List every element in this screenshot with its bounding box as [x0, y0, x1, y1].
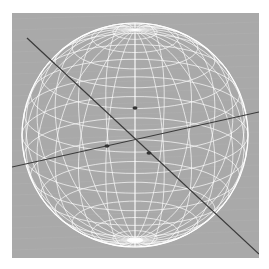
wireframe-sphere-scene[interactable] — [12, 13, 259, 258]
pivot-handle-top-icon[interactable] — [133, 106, 138, 110]
pivot-handle-left-icon[interactable] — [105, 144, 110, 148]
horizontal-axis[interactable] — [12, 112, 259, 167]
wireframe-sphere[interactable] — [22, 23, 248, 247]
3d-viewport[interactable] — [12, 13, 259, 258]
pivot-handle-right-icon[interactable] — [147, 151, 152, 155]
